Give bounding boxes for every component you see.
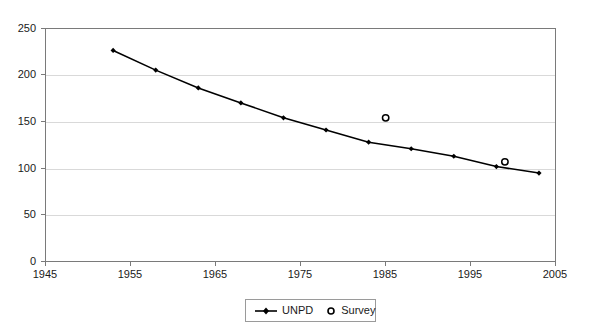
chart-legend: UNPD Survey (245, 299, 376, 322)
ytick-label-50: 50 (0, 209, 36, 220)
xtick-label-1985: 1985 (355, 268, 415, 280)
gridline-200 (46, 75, 555, 76)
xtick-mark-1965 (215, 262, 216, 266)
line-diamond-icon (254, 306, 278, 316)
ytick-mark-50 (41, 214, 45, 215)
ytick-mark-100 (41, 168, 45, 169)
legend-entry-unpd: UNPD (254, 305, 313, 316)
gridline-50 (46, 215, 555, 216)
line-chart: 250 200 150 100 50 0 1945 1955 1965 1975… (0, 0, 596, 328)
xtick-label-1965: 1965 (185, 268, 245, 280)
xtick-label-1955: 1955 (100, 268, 160, 280)
ytick-label-200: 200 (0, 69, 36, 80)
xtick-label-1975: 1975 (270, 268, 330, 280)
xtick-mark-1995 (470, 262, 471, 266)
xtick-mark-1975 (300, 262, 301, 266)
xtick-label-1945: 1945 (15, 268, 75, 280)
ytick-label-0: 0 (0, 256, 36, 267)
xtick-mark-1985 (385, 262, 386, 266)
legend-label-unpd: UNPD (282, 305, 313, 316)
xtick-label-2005: 2005 (525, 268, 585, 280)
legend-entry-survey: Survey (325, 305, 375, 316)
xtick-mark-1945 (45, 262, 46, 266)
open-circle-icon (325, 306, 337, 316)
ytick-mark-250 (41, 28, 45, 29)
ytick-mark-200 (41, 74, 45, 75)
gridline-100 (46, 169, 555, 170)
ytick-label-250: 250 (0, 23, 36, 34)
ytick-label-100: 100 (0, 163, 36, 174)
plot-area (45, 28, 556, 262)
ytick-mark-150 (41, 121, 45, 122)
xtick-mark-2005 (555, 262, 556, 266)
xtick-label-1995: 1995 (440, 268, 500, 280)
xtick-mark-1955 (130, 262, 131, 266)
ytick-label-150: 150 (0, 116, 36, 127)
legend-label-survey: Survey (341, 305, 375, 316)
gridline-150 (46, 122, 555, 123)
